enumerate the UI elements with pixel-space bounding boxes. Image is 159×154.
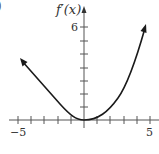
y-axis-label: f′(x) (55, 2, 81, 17)
derivative-graph: ) −5 5 6 f′(x) (0, 0, 159, 154)
right-arrowhead-icon (141, 24, 147, 33)
y-tick-label-6: 6 (71, 21, 78, 34)
part-label: ) (0, 0, 2, 13)
y-axis-arrow-icon (82, 6, 87, 13)
x-tick-label-5: 5 (146, 126, 153, 139)
x-tick-label-neg5: −5 (10, 126, 26, 139)
